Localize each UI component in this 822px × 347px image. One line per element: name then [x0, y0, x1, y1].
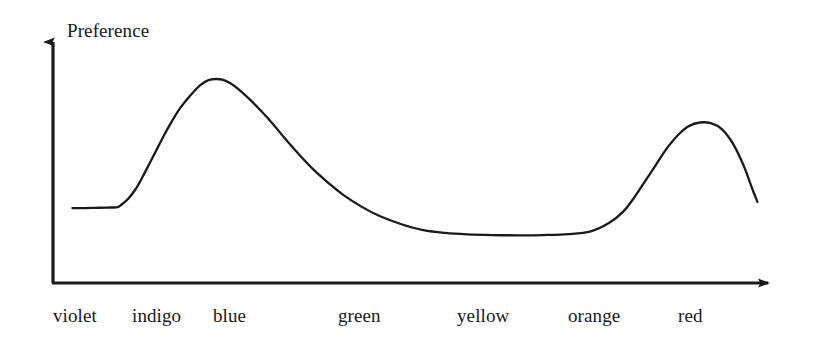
preference-data-curve [72, 79, 757, 235]
preference-curve-chart [0, 0, 822, 347]
axis-group [52, 42, 768, 283]
x-tick-label-yellow: yellow [457, 305, 509, 327]
x-tick-label-red: red [678, 305, 703, 327]
x-tick-label-violet: violet [53, 305, 97, 327]
y-axis-title: Preference [67, 20, 149, 42]
x-tick-label-green: green [338, 305, 381, 327]
x-tick-label-orange: orange [568, 305, 620, 327]
x-tick-label-blue: blue [213, 305, 246, 327]
x-tick-label-indigo: indigo [132, 305, 181, 327]
figure-canvas: Preference violet indigo blue green yell… [0, 0, 822, 347]
